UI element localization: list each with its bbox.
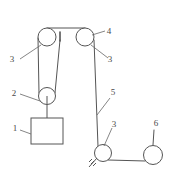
label-3-top-left: 3 (10, 54, 15, 64)
label-6: 6 (154, 118, 159, 128)
label-3-bottom: 3 (112, 119, 117, 129)
leader-4 (92, 31, 105, 35)
top-left-pulley (38, 28, 56, 46)
right-circle-stem (153, 130, 154, 145)
leader-5 (97, 98, 110, 115)
figure-canvas: 1 2 3 3 3 4 5 6 (0, 0, 178, 188)
bottom-horizontal-rope (108, 160, 145, 161)
label-5: 5 (111, 87, 116, 97)
label-1: 1 (13, 123, 18, 133)
anchor-to-movable-pulley-rope (55, 40, 60, 93)
leader-2 (20, 94, 40, 101)
bottom-pulley (95, 145, 112, 162)
ground-anchor-icon (89, 158, 97, 167)
right-vertical-rope (94, 40, 98, 146)
leader-1 (20, 130, 31, 134)
hanging-block (31, 118, 63, 144)
label-3-top-right: 3 (108, 54, 113, 64)
label-2: 2 (12, 88, 17, 98)
leader-3c (104, 128, 112, 146)
leader-3b (91, 45, 108, 58)
pulley-system-diagram: 1 2 3 3 3 4 5 6 (0, 0, 178, 188)
label-4: 4 (107, 26, 112, 36)
top-right-pulley (76, 28, 94, 46)
right-circle (144, 146, 163, 165)
